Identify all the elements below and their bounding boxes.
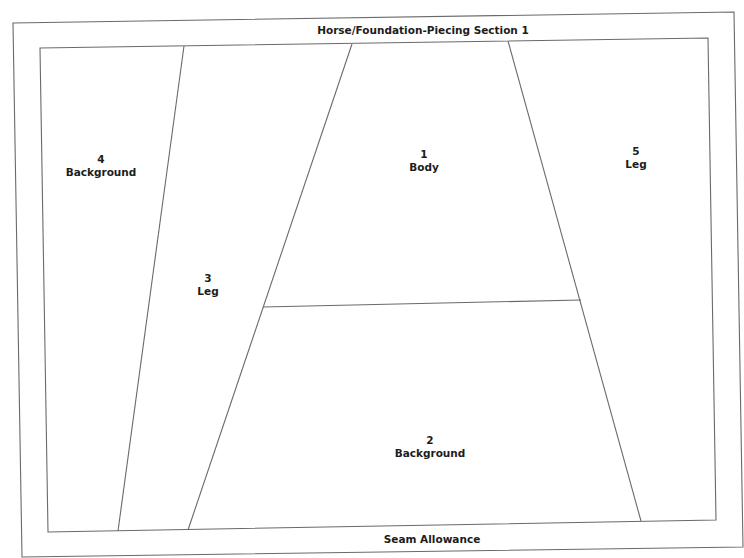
section-number: 3 [197,272,218,285]
seam-line-1-2 [263,300,581,307]
section-name: Background [395,447,466,460]
section-name: Background [66,166,137,179]
section-name: Leg [625,158,646,171]
section-2-background: 2 Background [395,434,466,460]
foundation-piecing-pattern [0,0,744,558]
section-4-background: 4 Background [66,153,137,179]
section-1-body: 1 Body [409,148,439,174]
seam-line-4-3 [118,46,184,531]
seam-allowance-label: Seam Allowance [384,533,481,545]
section-5-leg: 5 Leg [625,145,646,171]
section-3-leg: 3 Leg [197,272,218,298]
section-number: 5 [625,145,646,158]
seam-line-1-5 [508,41,641,521]
pattern-title: Horse/Foundation-Piecing Section 1 [317,24,529,36]
inner-pattern-border [40,38,716,532]
outer-seam-allowance-border [13,12,743,557]
section-number: 2 [395,434,466,447]
section-name: Body [409,161,439,174]
section-name: Leg [197,285,218,298]
section-number: 4 [66,153,137,166]
section-number: 1 [409,148,439,161]
